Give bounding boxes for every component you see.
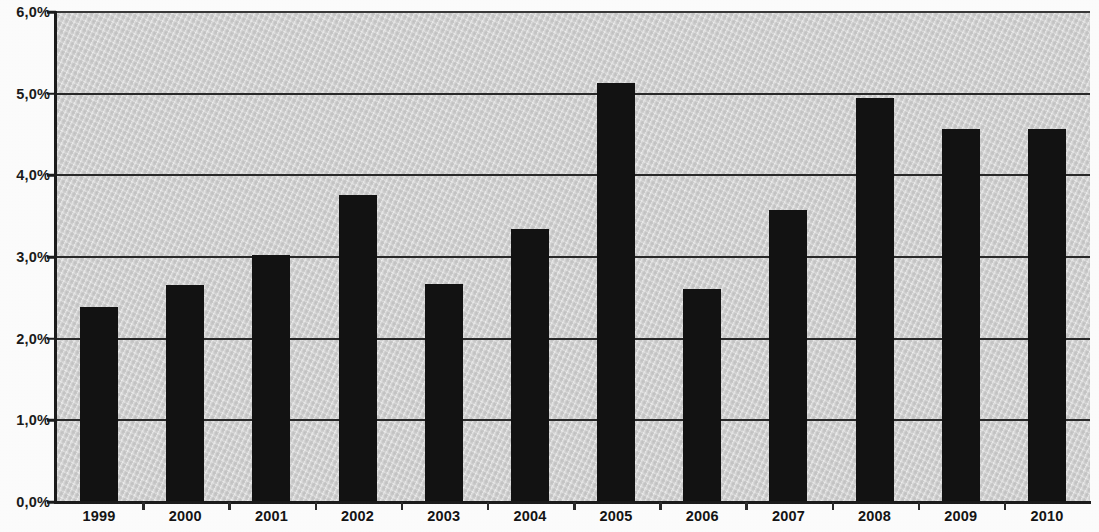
x-axis-tick-label-2005: 2005	[600, 508, 633, 524]
x-axis-tick-label-2008: 2008	[858, 508, 891, 524]
gridline-30	[56, 256, 1090, 258]
y-axis-tick-mark	[47, 11, 56, 14]
x-axis-tick-label-2004: 2004	[513, 508, 546, 524]
x-axis-tick-mark	[659, 502, 662, 510]
x-axis-tick-label-2009: 2009	[944, 508, 977, 524]
bar-2008	[856, 98, 894, 502]
y-axis-tick-label: 2,0%	[4, 331, 50, 347]
x-axis-tick-mark	[228, 502, 231, 510]
x-axis-tick-mark	[1004, 502, 1007, 510]
y-axis-tick-label: 3,0%	[4, 249, 50, 265]
y-axis-tick-label: 4,0%	[4, 167, 50, 183]
x-axis-tick-label-2000: 2000	[169, 508, 202, 524]
y-axis-tick-label: 6,0%	[4, 4, 50, 20]
y-axis-tick-mark	[47, 256, 56, 259]
y-axis-tick-mark	[47, 92, 56, 95]
x-axis-tick-label-2006: 2006	[686, 508, 719, 524]
x-axis-tick-mark	[487, 502, 490, 510]
x-axis-tick-label-2001: 2001	[255, 508, 288, 524]
y-axis-tick-mark	[47, 174, 56, 177]
gridline-50	[56, 93, 1090, 95]
gridline-60	[56, 11, 1090, 13]
y-axis-tick-labels: 0,0%1,0%2,0%3,0%4,0%5,0%6,0%	[0, 0, 50, 532]
bar-2003	[425, 284, 463, 502]
y-axis-tick-mark	[47, 501, 56, 504]
x-axis-tick-mark	[315, 502, 318, 510]
bar-2002	[339, 195, 377, 502]
x-axis-tick-mark	[918, 502, 921, 510]
x-axis-tick-label-2007: 2007	[772, 508, 805, 524]
y-axis-tick-mark	[47, 419, 56, 422]
x-axis-tick-label-1999: 1999	[83, 508, 116, 524]
chart-page: 0,0%1,0%2,0%3,0%4,0%5,0%6,0% 19992000200…	[0, 0, 1099, 532]
y-axis-tick-label: 1,0%	[4, 412, 50, 428]
gridline-20	[56, 338, 1090, 340]
bar-2004	[511, 229, 549, 502]
bar-2005	[597, 83, 635, 502]
x-axis-tick-label-2002: 2002	[341, 508, 374, 524]
x-axis-tick-mark	[832, 502, 835, 510]
x-axis-tick-label-2010: 2010	[1030, 508, 1063, 524]
gridline-10	[56, 419, 1090, 421]
bar-2010	[1028, 129, 1066, 502]
x-axis-tick-mark	[401, 502, 404, 510]
gridline-40	[56, 174, 1090, 176]
y-axis-tick-label: 5,0%	[4, 86, 50, 102]
bar-2000	[166, 285, 204, 502]
bar-2001	[252, 255, 290, 502]
x-axis-tick-mark	[745, 502, 748, 510]
x-axis-tick-label-2003: 2003	[427, 508, 460, 524]
plot-area	[56, 12, 1090, 502]
bar-2007	[769, 210, 807, 502]
bar-2006	[683, 289, 721, 502]
bar-2009	[942, 129, 980, 502]
bar-1999	[80, 307, 118, 502]
x-axis-tick-mark	[573, 502, 576, 510]
x-axis-tick-mark	[142, 502, 145, 510]
y-axis-tick-mark	[47, 337, 56, 340]
x-axis-tick-labels: 1999200020012002200320042005200620072008…	[0, 508, 1099, 532]
